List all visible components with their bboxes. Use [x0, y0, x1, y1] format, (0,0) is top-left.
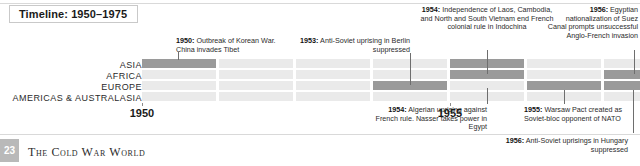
footer-divider — [0, 134, 640, 135]
row-label-asia: ASIA — [120, 61, 142, 70]
cell-europe-1951 — [219, 81, 293, 90]
cell-asia-1955 — [527, 59, 601, 68]
timeline-chart: ASIA AFRICA EUROPE AMERICAS & AUSTRALASI… — [0, 0, 640, 135]
footer-section-title: The Cold War World — [28, 145, 145, 160]
cell-asia-1950 — [142, 59, 216, 68]
row-label-americas-australasia: AMERICAS & AUSTRALASIA — [13, 94, 142, 103]
annotation-1953-berlin-text: Anti-Soviet uprising in Berlin suppresse… — [319, 36, 411, 54]
row-label-africa: AFRICA — [106, 72, 142, 81]
axis-year-1950: 1950 — [122, 108, 162, 119]
cell-americas-1952 — [296, 92, 370, 101]
cell-africa-1955 — [527, 70, 601, 79]
cell-europe-1955 — [527, 81, 601, 90]
leader-line-1956-suez — [634, 50, 635, 74]
axis-year-1955: 1955 — [430, 108, 470, 119]
cell-europe-1952 — [296, 81, 370, 90]
leader-line-1956-hungary — [633, 90, 634, 133]
axis-tick-1955 — [450, 103, 451, 106]
cell-americas-1951 — [219, 92, 293, 101]
row-label-europe: EUROPE — [101, 83, 142, 92]
cell-europe-1950 — [142, 81, 216, 90]
cell-africa-1951 — [219, 70, 293, 79]
cell-americas-1956 — [604, 92, 640, 101]
cell-africa-1952 — [296, 70, 370, 79]
page-number-badge: 23 — [0, 139, 19, 162]
annotation-1953-berlin: 1953: Anti-Soviet uprising in Berlin sup… — [296, 37, 410, 54]
leader-line-1953-berlin — [410, 53, 411, 85]
cell-africa-1950 — [142, 70, 216, 79]
page-footer: 23 The Cold War World — [0, 139, 640, 166]
annotation-1954-indochina-text: Independence of Laos, Cambodia, and Nort… — [421, 5, 554, 31]
annotation-1955-warsaw: 1955: Warsaw Pact created as Soviet-bloc… — [524, 106, 632, 123]
axis-tick-1950 — [142, 103, 143, 106]
annotation-1954-indochina: 1954: Independence of Laos, Cambodia, an… — [420, 6, 554, 32]
annotation-1953-berlin-year: 1953: — [300, 36, 318, 45]
leader-line-1950-korea — [178, 52, 179, 60]
annotation-1956-suez: 1956: Egyptian nationalization of Suez C… — [545, 6, 638, 40]
leader-line-1954-indochina — [487, 50, 488, 74]
cell-americas-1953 — [373, 92, 447, 101]
cell-americas-1950 — [142, 92, 216, 101]
page-number-text: 23 — [4, 146, 15, 156]
annotation-1950-korea: 1950: Outbreak of Korean War. China inva… — [176, 37, 296, 54]
cell-asia-1951 — [219, 59, 293, 68]
cell-asia-1952 — [296, 59, 370, 68]
leader-line-1955-warsaw — [564, 90, 565, 104]
leader-line-1954-algeria — [487, 88, 488, 104]
cell-europe-1956 — [604, 81, 640, 90]
